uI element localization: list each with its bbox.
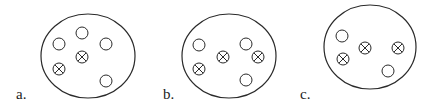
- open-circle-icon: [76, 27, 88, 39]
- crossed-circle-icon: [252, 51, 264, 63]
- crossed-circle-icon: [76, 51, 88, 63]
- open-circle-icon: [53, 38, 65, 50]
- panel-label: a.: [16, 86, 26, 102]
- open-circle-icon: [240, 38, 252, 50]
- crossed-circle-icon: [53, 63, 65, 75]
- panel-b: b.: [163, 14, 276, 102]
- open-circle-icon: [100, 75, 112, 87]
- open-circle-icon: [240, 74, 252, 86]
- open-circle-icon: [193, 39, 205, 51]
- open-circle-icon: [100, 38, 112, 50]
- panel-a: a.: [16, 14, 135, 102]
- panel-label: c.: [300, 86, 310, 102]
- panel-label: b.: [163, 86, 174, 102]
- crossed-circle-icon: [359, 42, 371, 54]
- particle-diagram: a.b.c.: [0, 0, 441, 106]
- open-circle-icon: [336, 30, 348, 42]
- open-circle-icon: [382, 65, 394, 77]
- crossed-circle-icon: [217, 51, 229, 63]
- crossed-circle-icon: [337, 53, 349, 65]
- crossed-circle-icon: [392, 42, 404, 54]
- crossed-circle-icon: [193, 63, 205, 75]
- panel-c: c.: [300, 5, 416, 102]
